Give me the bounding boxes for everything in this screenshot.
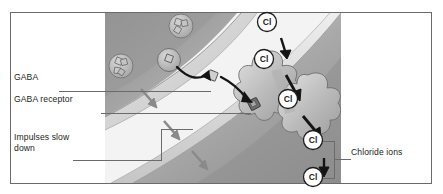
synapse-illustration <box>105 13 341 183</box>
label-impulses-slow-down: Impulses slow down <box>14 132 69 153</box>
bracket-chloride-arm-bottom <box>307 178 335 179</box>
leader-gaba-receptor <box>101 113 251 114</box>
label-gaba-receptor: GABA receptor <box>14 94 73 105</box>
figure-frame <box>10 12 432 184</box>
label-gaba: GABA <box>14 72 38 83</box>
leader-gaba <box>59 91 211 92</box>
vesicle <box>109 54 133 78</box>
figure-root: Cl Cl Cl Cl Cl GABA GABA receptor Impuls… <box>0 0 443 194</box>
vesicle <box>169 14 193 38</box>
bracket-chloride-arm-top <box>307 141 335 142</box>
label-chloride-ions: Chloride ions <box>351 147 402 158</box>
leader-impulses-top <box>161 129 193 130</box>
bracket-chloride-stub <box>334 159 351 160</box>
leader-impulses-v <box>161 129 162 161</box>
leader-impulses-h <box>73 160 161 161</box>
